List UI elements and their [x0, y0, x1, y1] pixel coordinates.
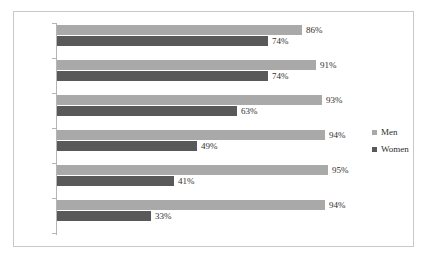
- bar-women-2000[interactable]: [57, 36, 268, 46]
- bar-men-1970[interactable]: [57, 130, 325, 140]
- bar-value-men-1980: 93%: [326, 95, 343, 105]
- bar-value-men-2000: 86%: [306, 25, 323, 35]
- axis-tick: [52, 163, 56, 164]
- bar-men-1990[interactable]: [57, 60, 316, 70]
- axis-tick: [52, 93, 56, 94]
- axis-tick: [52, 58, 56, 59]
- bar-women-1980[interactable]: [57, 106, 237, 116]
- axis-tick: [52, 23, 56, 24]
- bar-men-1980[interactable]: [57, 95, 322, 105]
- bar-value-men-1970: 94%: [329, 130, 346, 140]
- legend-label-men: Men: [381, 128, 398, 137]
- bar-value-women-1960: 41%: [178, 176, 195, 186]
- bar-men-1960[interactable]: [57, 165, 328, 175]
- bar-value-men-1950: 94%: [329, 200, 346, 210]
- bar-women-1960[interactable]: [57, 176, 174, 186]
- legend-swatch-men-icon: [372, 130, 377, 135]
- bar-value-women-1970: 49%: [201, 141, 218, 151]
- chart-frame: 2000 86% 74% 1990 91% 74% 1980 93% 63% 1…: [13, 11, 414, 247]
- legend-item-men[interactable]: Men: [372, 124, 428, 141]
- bar-value-men-1990: 91%: [320, 60, 337, 70]
- bar-men-2000[interactable]: [57, 25, 302, 35]
- axis-tick: [52, 233, 56, 234]
- plot-area: 2000 86% 74% 1990 91% 74% 1980 93% 63% 1…: [14, 12, 415, 248]
- legend-item-women[interactable]: Women: [372, 141, 428, 158]
- bar-women-1990[interactable]: [57, 71, 268, 81]
- bar-women-1950[interactable]: [57, 211, 151, 221]
- bar-men-1950[interactable]: [57, 200, 325, 210]
- bar-value-women-2000: 74%: [272, 36, 289, 46]
- legend-label-women: Women: [381, 145, 409, 154]
- bar-value-women-1950: 33%: [155, 211, 172, 221]
- bar-value-women-1980: 63%: [241, 106, 258, 116]
- chart-legend: Men Women: [372, 124, 428, 158]
- bar-women-1970[interactable]: [57, 141, 197, 151]
- axis-tick: [52, 198, 56, 199]
- axis-tick: [52, 128, 56, 129]
- bar-value-men-1960: 95%: [332, 165, 349, 175]
- legend-swatch-women-icon: [372, 147, 377, 152]
- bar-value-women-1990: 74%: [272, 71, 289, 81]
